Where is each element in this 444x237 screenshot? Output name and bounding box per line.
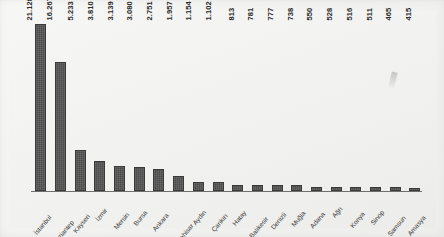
bar-slot: 1.102: [208, 24, 228, 191]
bar-slot: 5.233: [70, 24, 90, 191]
bar-value-label: 16.267: [45, 0, 53, 20]
bar-slot: 516: [346, 24, 366, 191]
chart-screenshot: 21.12816.2675.2333.8103.1393.0802.7511.9…: [0, 0, 444, 237]
x-tick-slot: Ağrı: [326, 193, 346, 237]
x-tick-slot: Çankırı: [208, 193, 228, 237]
plot-area: 21.12816.2675.2333.8103.1393.0802.7511.9…: [31, 24, 425, 191]
bar-value-label: 5.233: [67, 1, 75, 20]
x-tick-slot: Amasya: [405, 193, 425, 237]
x-tick-slot: Samsun: [385, 193, 405, 237]
bar-value-label: 3.139: [106, 1, 114, 20]
bar-slot: 21.128: [31, 24, 51, 191]
bar-slot: 1.154: [189, 24, 209, 191]
bar-slot: 2.751: [149, 24, 169, 191]
bar-value-label: 21.128: [26, 0, 34, 20]
bar-slot: 550: [307, 24, 327, 191]
x-tick-slot: Kayseri: [70, 193, 90, 237]
x-axis-line: [31, 191, 422, 192]
bar[interactable]: [153, 169, 164, 191]
bar-value-label: 813: [228, 7, 236, 20]
x-tick-slot: Mersin: [110, 193, 130, 237]
bar[interactable]: [55, 62, 66, 191]
bar[interactable]: [35, 24, 46, 191]
x-tick-slot: Aydın: [189, 193, 209, 237]
x-tick-slot: Sinop: [366, 193, 386, 237]
x-tick-slot: Gaziantep: [51, 193, 71, 237]
bar-value-label: 2.751: [146, 1, 154, 20]
bar-value-label: 415: [405, 7, 413, 20]
bar-slot: 465: [385, 24, 405, 191]
x-tick-slot: İstanbul: [31, 193, 51, 237]
bar[interactable]: [193, 182, 204, 191]
bar[interactable]: [114, 166, 125, 191]
bar-slot: 1.957: [169, 24, 189, 191]
x-tick-slot: Muğla: [287, 193, 307, 237]
bar-slot: 528: [326, 24, 346, 191]
bar-value-label: 738: [287, 7, 295, 20]
x-axis-tick-labels: İstanbulGaziantepKayseriİzmirMersinBursa…: [31, 193, 425, 237]
x-tick-slot: Denizli: [267, 193, 287, 237]
bar-slot: 3.080: [129, 24, 149, 191]
bar[interactable]: [213, 182, 224, 191]
bar-slot: 3.810: [90, 24, 110, 191]
bar-value-label: 550: [307, 7, 315, 20]
bar[interactable]: [94, 161, 105, 191]
bar-value-label: 781: [247, 7, 255, 20]
bar-value-label: 511: [366, 8, 374, 20]
x-tick-slot: Bursa: [129, 193, 149, 237]
chart-panel: 21.12816.2675.2333.8103.1393.0802.7511.9…: [9, 10, 436, 229]
bar-value-label: 3.810: [87, 1, 95, 20]
x-tick-slot: Konya: [346, 193, 366, 237]
bar-slot: 738: [287, 24, 307, 191]
x-tick-slot: Hatay: [228, 193, 248, 237]
bar-value-label: 1.154: [185, 1, 193, 20]
bar-value-label: 3.080: [126, 1, 134, 20]
bar-value-label: 465: [385, 7, 393, 20]
bar-slot: 813: [228, 24, 248, 191]
bar[interactable]: [134, 167, 145, 191]
bar-value-label: 528: [326, 7, 334, 20]
bar-value-label: 1.957: [166, 1, 174, 20]
x-tick-slot: Adana: [307, 193, 327, 237]
bar-value-label: 1.102: [205, 1, 213, 20]
x-tick-slot: A.Karahisar: [169, 193, 189, 237]
bar-slot: 3.139: [110, 24, 130, 191]
bar-slot: 415: [405, 24, 425, 191]
bar[interactable]: [75, 150, 86, 191]
bar-slot: 511: [366, 24, 386, 191]
x-tick-slot: Ankara: [149, 193, 169, 237]
x-tick-slot: Balıkesir: [248, 193, 268, 237]
bar-slot: 16.267: [51, 24, 71, 191]
bar-series: 21.12816.2675.2333.8103.1393.0802.7511.9…: [31, 24, 425, 191]
bar-slot: 781: [248, 24, 268, 191]
x-tick-slot: İzmir: [90, 193, 110, 237]
bar-value-label: 777: [267, 7, 275, 20]
bar-slot: 777: [267, 24, 287, 191]
bar[interactable]: [173, 176, 184, 191]
bar-value-label: 516: [346, 7, 354, 20]
